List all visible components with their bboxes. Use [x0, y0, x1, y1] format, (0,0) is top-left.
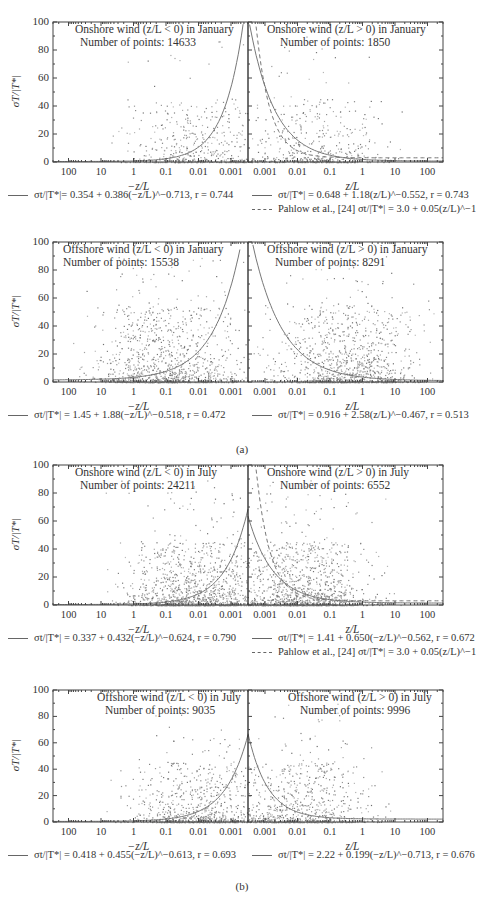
y-tick-label: 100	[23, 235, 49, 247]
point-count-right: Number of points: 8291	[275, 256, 385, 268]
point-count-right: Number of points: 1850	[280, 36, 390, 48]
y-tick-label: 60	[23, 736, 49, 748]
y-tick-label: 80	[23, 486, 49, 498]
legend-pahlow: Pahlow et al., [24] σt/|T*| = 3.0 + 0.05…	[252, 203, 476, 214]
fit-curve-left	[53, 509, 248, 604]
legend-pahlow-text: Pahlow et al., [24] σt/|T*| = 3.0 + 0.05…	[278, 646, 476, 657]
legend-right: σt/|T*| = 0.916 + 2.58(z/L)^−0.467, r = …	[252, 409, 469, 420]
legend-solid-line-icon	[252, 195, 272, 196]
legend-right-text: σt/|T*| = 1.41 + 0.650(−z/L)^−0.562, r =…	[278, 632, 475, 643]
scatter-points	[106, 480, 402, 606]
point-count-left: Number of points: 14633	[80, 36, 196, 48]
legend-solid-line-icon	[252, 415, 272, 416]
subfigure-caption-b: (b)	[222, 880, 262, 892]
scatter-points	[71, 256, 435, 383]
y-tick-label: 60	[23, 291, 49, 303]
legend-right-text: σt/|T*| = 0.916 + 2.58(z/L)^−0.467, r = …	[278, 409, 469, 420]
fit-curve-left	[53, 735, 248, 822]
legend-solid-line-icon	[8, 638, 28, 639]
fit-curve-right	[248, 734, 443, 819]
scatter-points	[100, 704, 391, 824]
legend-right: σt/|T*| = 1.41 + 0.650(−z/L)^−0.562, r =…	[252, 632, 475, 643]
scatter-points	[111, 37, 402, 164]
y-tick-label: 100	[23, 683, 49, 695]
panel-title-right: Offshore wind (z/L > 0) in July	[288, 691, 432, 703]
legend-right-text: σt/|T*| = 2.22 + 0.199(−z/L)^−0.713, r =…	[278, 849, 475, 860]
legend-left: σt/|T*| = 0.418 + 0.455(−z/L)^−0.613, r …	[8, 849, 236, 860]
point-count-right: Number of points: 9996	[300, 704, 410, 716]
y-axis-label: σT/|T*|	[9, 504, 21, 564]
point-count-right: Number of points: 6552	[280, 479, 390, 491]
legend-right: σt/|T*| = 2.22 + 0.199(−z/L)^−0.713, r =…	[252, 849, 475, 860]
y-axis-label: σT/|T*|	[9, 725, 21, 785]
point-count-left: Number of points: 24211	[80, 479, 196, 491]
legend-solid-line-icon	[252, 638, 272, 639]
y-tick-label: 40	[23, 762, 49, 774]
figure: 1008060402001001010.10.010.0010.0010.010…	[0, 0, 484, 905]
panel-title-left: Onshore wind (z/L < 0) in January	[75, 23, 234, 35]
panel-title-left: Offshore wind (z/L < 0) in January	[63, 243, 223, 255]
legend-solid-line-icon	[8, 195, 28, 196]
y-tick-label: 20	[23, 347, 49, 359]
legend-left-text: σt/|T*| = 1.45 + 1.88(−z/L)^−0.518, r = …	[34, 409, 225, 420]
legend-left: σt/|T*|= 0.354 + 0.386(−z/L)^−0.713, r =…	[8, 189, 233, 200]
y-tick-label: 20	[23, 789, 49, 801]
y-tick-label: 100	[23, 458, 49, 470]
point-count-left: Number of points: 15538	[63, 256, 179, 268]
y-tick-label: 0	[23, 598, 49, 610]
legend-pahlow: Pahlow et al., [24] σt/|T*| = 3.0 + 0.05…	[252, 646, 476, 657]
y-axis-label: σT/|T*|	[9, 281, 21, 341]
legend-pahlow-text: Pahlow et al., [24] σt/|T*| = 3.0 + 0.05…	[278, 203, 476, 214]
y-tick-label: 0	[23, 155, 49, 167]
legend-left: σt/|T*| = 0.337 + 0.432(−z/L)^−0.624, r …	[8, 632, 236, 643]
y-tick-label: 20	[23, 570, 49, 582]
y-tick-label: 60	[23, 514, 49, 526]
y-tick-label: 100	[23, 15, 49, 27]
point-count-left: Number of points: 9035	[105, 704, 215, 716]
legend-solid-line-icon	[252, 855, 272, 856]
panel-title-right: Onshore wind (z/L > 0) in July	[267, 466, 409, 478]
legend-left: σt/|T*| = 1.45 + 1.88(−z/L)^−0.518, r = …	[8, 409, 225, 420]
y-tick-label: 40	[23, 319, 49, 331]
legend-solid-line-icon	[8, 855, 28, 856]
x-tick-label-right: 100	[407, 386, 447, 397]
panel-title-right: Onshore wind (z/L > 0) in January	[267, 23, 426, 35]
legend-left-text: σt/|T*| = 0.418 + 0.455(−z/L)^−0.613, r …	[34, 849, 236, 860]
y-tick-label: 80	[23, 263, 49, 275]
y-tick-label: 0	[23, 815, 49, 827]
legend-left-text: σt/|T*|= 0.354 + 0.386(−z/L)^−0.713, r =…	[34, 189, 233, 200]
legend-dashed-line-icon	[252, 652, 272, 653]
y-tick-label: 40	[23, 99, 49, 111]
x-tick-label-right: 100	[407, 166, 447, 177]
y-tick-label: 80	[23, 709, 49, 721]
legend-dashed-line-icon	[252, 209, 272, 210]
subfigure-caption-a: (a)	[222, 443, 262, 455]
y-tick-label: 40	[23, 542, 49, 554]
legend-solid-line-icon	[8, 415, 28, 416]
legend-right: σt/|T*| = 0.648 + 1.18(z/L)^−0.552, r = …	[252, 189, 469, 200]
panel-title-left: Onshore wind (z/L < 0) in July	[75, 466, 217, 478]
x-tick-label-right: 100	[407, 609, 447, 620]
panel-title-left: Offshore wind (z/L < 0) in July	[97, 691, 241, 703]
y-tick-label: 20	[23, 127, 49, 139]
panel-title-right: Offshore wind (z/L > 0) in January	[267, 243, 427, 255]
x-tick-label-right: 100	[407, 826, 447, 837]
y-tick-label: 80	[23, 43, 49, 55]
fit-curve-left	[53, 250, 240, 380]
legend-left-text: σt/|T*| = 0.337 + 0.432(−z/L)^−0.624, r …	[34, 632, 236, 643]
y-axis-label: σT/|T*|	[9, 61, 21, 121]
y-tick-label: 60	[23, 71, 49, 83]
y-tick-label: 0	[23, 375, 49, 387]
legend-right-text: σt/|T*| = 0.648 + 1.18(z/L)^−0.552, r = …	[278, 189, 469, 200]
